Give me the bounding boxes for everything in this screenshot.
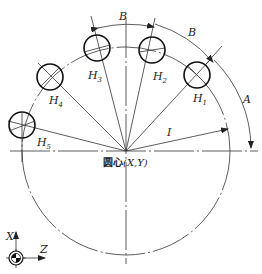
hole-h1 (184, 62, 210, 88)
hole-h2 (139, 37, 165, 63)
label-a: A (242, 93, 251, 106)
label-b-2: B (187, 26, 196, 39)
axis-label-x: X (5, 230, 15, 243)
hole-h5 (9, 112, 35, 162)
label-h2: H2 (152, 70, 168, 85)
label-b-1: B (118, 10, 127, 23)
label-h1: H1 (192, 92, 207, 107)
axis-label-z: Z (39, 243, 48, 256)
hole-h4 (37, 64, 63, 90)
label-h5: H5 (36, 136, 52, 151)
label-h4: H4 (48, 94, 63, 109)
label-i: I (166, 126, 172, 139)
bolt-hole-circle-diagram: H1 H2 H3 H4 H5 B B A I 圆心(X,Y) X Z (0, 0, 262, 274)
center-label: 圆心(X,Y) (103, 157, 148, 168)
radius-arrow (126, 129, 228, 151)
label-h3: H3 (87, 69, 103, 84)
extension-line-h1 (206, 46, 222, 64)
